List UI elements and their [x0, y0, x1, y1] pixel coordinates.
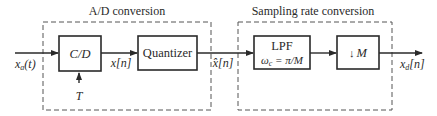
downsampler-label: ↓M [349, 46, 368, 60]
sampled-signal-label: x[n] [110, 56, 132, 70]
lpf-block: LPF ωc = π/M [254, 36, 310, 69]
sampling-rate-conversion-title: Sampling rate conversion [252, 4, 375, 18]
sampling-period-label: T [76, 89, 84, 103]
quantizer-block-label: Quantizer [143, 46, 193, 60]
downsampler-block: ↓M [337, 36, 379, 69]
input-signal-label: xa(t) [14, 57, 36, 72]
cd-converter-block: C/D [59, 36, 101, 71]
lpf-cutoff-label: ωc = π/M [261, 54, 304, 68]
ad-conversion-title: A/D conversion [89, 4, 165, 18]
quantized-signal-label: x̂[n] [212, 56, 234, 70]
output-signal-label: xd[n] [399, 57, 425, 72]
quantizer-block: Quantizer [138, 36, 197, 70]
lpf-block-label: LPF [271, 39, 293, 53]
cd-block-label: C/D [70, 47, 91, 61]
down-arrow-icon: ↓ [349, 47, 355, 59]
ad-sampling-rate-diagram: A/D conversion Sampling rate conversion … [0, 0, 437, 116]
